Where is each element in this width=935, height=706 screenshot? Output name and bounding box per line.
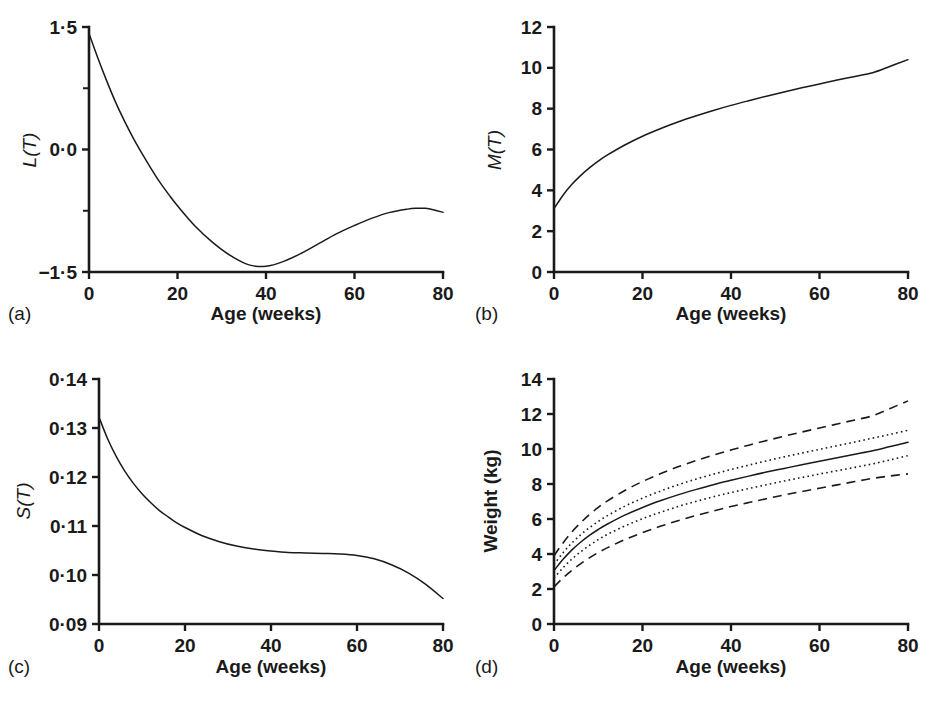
x-tick-label-d-1: 20 bbox=[632, 635, 653, 656]
x-tick-label-a-1: 20 bbox=[167, 283, 188, 304]
x-tick-label-a-2: 40 bbox=[255, 283, 276, 304]
panel-label-b: (b) bbox=[475, 303, 498, 324]
axis-spines-a bbox=[89, 27, 443, 272]
x-axis-title-d: Age (weeks) bbox=[676, 656, 787, 677]
y-tick-label-d-0: 0 bbox=[531, 614, 542, 635]
x-tick-label-b-0: 0 bbox=[549, 283, 560, 304]
x-tick-label-d-3: 60 bbox=[809, 635, 830, 656]
y-axis-title-b: M(T) bbox=[484, 130, 505, 170]
chart-panel-d: 02468101214020406080Weight (kg)Age (week… bbox=[467, 353, 934, 706]
series-b-0 bbox=[554, 60, 908, 209]
y-tick-label-d-3: 6 bbox=[531, 509, 542, 530]
y-tick-label-c-3: 0·12 bbox=[49, 467, 87, 488]
x-tick-label-c-0: 0 bbox=[94, 635, 105, 656]
x-tick-label-a-3: 60 bbox=[344, 283, 365, 304]
figure-panel-grid: −1·50·01·5020406080L(T)Age (weeks)(a) 02… bbox=[0, 0, 935, 706]
x-tick-label-b-2: 40 bbox=[720, 283, 741, 304]
y-tick-label-b-5: 10 bbox=[521, 57, 542, 78]
chart-panel-c: 0·090·100·110·120·130·14020406080S(T)Age… bbox=[0, 353, 467, 706]
y-axis-title-d: Weight (kg) bbox=[480, 449, 501, 552]
x-tick-label-c-1: 20 bbox=[174, 635, 195, 656]
x-axis-title-c: Age (weeks) bbox=[216, 656, 327, 677]
y-tick-label-b-1: 2 bbox=[531, 221, 542, 242]
panel-label-c: (c) bbox=[8, 656, 30, 677]
y-tick-label-c-0: 0·09 bbox=[49, 614, 87, 635]
x-axis-title-b: Age (weeks) bbox=[676, 303, 787, 324]
y-tick-label-c-1: 0·10 bbox=[49, 565, 87, 586]
y-tick-label-c-4: 0·13 bbox=[49, 418, 87, 439]
series-c-0 bbox=[99, 417, 443, 598]
x-tick-label-c-4: 80 bbox=[432, 635, 453, 656]
chart-panel-b: 024681012020406080M(T)Age (weeks)(b) bbox=[467, 0, 934, 353]
y-axis-title-c: S(T) bbox=[13, 483, 34, 520]
y-tick-label-b-0: 0 bbox=[531, 262, 542, 283]
chart-panel-a: −1·50·01·5020406080L(T)Age (weeks)(a) bbox=[0, 0, 467, 353]
chart-svg-a: −1·50·01·5020406080L(T)Age (weeks)(a) bbox=[0, 0, 467, 353]
y-tick-label-d-1: 2 bbox=[531, 579, 542, 600]
series-d-4 bbox=[554, 474, 908, 587]
x-tick-label-d-4: 80 bbox=[897, 635, 918, 656]
y-tick-label-b-3: 6 bbox=[531, 139, 542, 160]
panel-label-d: (d) bbox=[475, 656, 498, 677]
y-tick-label-d-4: 8 bbox=[531, 474, 542, 495]
x-tick-label-a-0: 0 bbox=[84, 283, 95, 304]
x-tick-label-c-3: 60 bbox=[346, 635, 367, 656]
y-tick-label-b-2: 4 bbox=[531, 180, 542, 201]
x-tick-label-d-0: 0 bbox=[549, 635, 560, 656]
axis-spines-b bbox=[554, 27, 908, 272]
series-a-0 bbox=[89, 34, 443, 267]
y-tick-label-a-0: −1·5 bbox=[38, 262, 77, 283]
y-axis-title-a: L(T) bbox=[19, 133, 40, 168]
chart-svg-c: 0·090·100·110·120·130·14020406080S(T)Age… bbox=[0, 353, 467, 706]
chart-svg-d: 02468101214020406080Weight (kg)Age (week… bbox=[467, 353, 934, 706]
x-tick-label-b-4: 80 bbox=[897, 283, 918, 304]
y-tick-label-c-5: 0·14 bbox=[49, 369, 87, 390]
y-tick-label-d-5: 10 bbox=[521, 439, 542, 460]
series-d-0 bbox=[554, 401, 908, 556]
y-tick-label-d-7: 14 bbox=[521, 369, 543, 390]
chart-svg-b: 024681012020406080M(T)Age (weeks)(b) bbox=[467, 0, 934, 353]
x-axis-title-a: Age (weeks) bbox=[211, 303, 322, 324]
y-tick-label-a-2: 1·5 bbox=[50, 17, 78, 38]
y-tick-label-d-2: 4 bbox=[531, 544, 542, 565]
x-tick-label-b-3: 60 bbox=[809, 283, 830, 304]
y-tick-label-b-4: 8 bbox=[531, 98, 542, 119]
y-tick-label-a-1: 0·0 bbox=[50, 139, 77, 160]
y-tick-label-b-6: 12 bbox=[521, 17, 542, 38]
panel-label-a: (a) bbox=[8, 303, 31, 324]
x-tick-label-b-1: 20 bbox=[632, 283, 653, 304]
y-tick-label-d-6: 12 bbox=[521, 404, 542, 425]
y-tick-label-c-2: 0·11 bbox=[50, 516, 87, 537]
series-d-3 bbox=[554, 456, 908, 579]
x-tick-label-d-2: 40 bbox=[720, 635, 741, 656]
x-tick-label-c-2: 40 bbox=[260, 635, 281, 656]
x-tick-label-a-4: 80 bbox=[432, 283, 453, 304]
